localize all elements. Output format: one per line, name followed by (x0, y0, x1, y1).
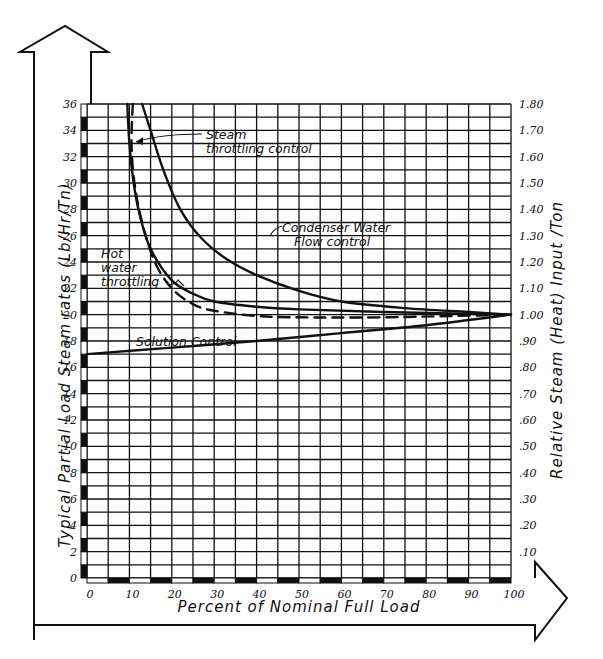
annotation-hotwater-line1: Hot (101, 246, 124, 261)
y2-tick-label: .90 (519, 335, 537, 348)
y2-tick-label: .60 (519, 414, 537, 427)
y-scale-segment (81, 433, 87, 446)
y-tick-label: 36 (63, 98, 77, 111)
x-scale-segment (87, 578, 108, 583)
y2-axis-title: Relative Steam (Heat) Input /Ton (548, 201, 566, 479)
x-scale-segment (151, 578, 172, 583)
x-scale-segment (384, 578, 405, 583)
y-scale-segment (81, 262, 87, 275)
y-scale-segment (81, 341, 87, 354)
x-scale-segment (257, 578, 278, 583)
y-scale-segment (81, 130, 87, 143)
y-scale-segment (81, 499, 87, 512)
annotation-condenser-line1: Condenser Water (282, 220, 391, 235)
x-scale-segment (172, 578, 193, 583)
y-scale-segment (81, 525, 87, 538)
y-scale-segment (81, 473, 87, 486)
annotation-condenser-leader (270, 226, 282, 236)
annotation-steam-throttling: Steam throttling control (136, 127, 312, 156)
y2-tick-label: 1.70 (519, 124, 544, 137)
y2-tick-label: .30 (519, 493, 537, 506)
x-tick-label: 80 (422, 588, 436, 601)
y-scale-segment (81, 446, 87, 459)
y2-tick-label: .10 (519, 546, 537, 559)
x-scale-segment (341, 578, 362, 583)
x-tick-label: 90 (465, 588, 479, 601)
y-scale-segment (81, 104, 87, 117)
y-scale-segment (81, 539, 87, 552)
y-scale-segment (81, 302, 87, 315)
y2-tick-label: 1.40 (519, 203, 544, 216)
annotation-hotwater-line2: water (101, 260, 137, 275)
y-scale-segment (81, 209, 87, 222)
x-scale-segment (278, 578, 299, 583)
y-scale-segment (81, 183, 87, 196)
y-scale-segment (81, 223, 87, 236)
x-scale-segment (193, 578, 214, 583)
y-scale-segment (81, 196, 87, 209)
y-scale-segment (81, 381, 87, 394)
steam-rate-chart: 0246810121416182022242628303234360102030… (0, 0, 603, 659)
y-scale-segment (81, 315, 87, 328)
annotation-solution: Solution Control (136, 334, 237, 349)
y2-tick-label: 1.60 (519, 151, 544, 164)
y-scale-segment (81, 552, 87, 565)
x-scale-segment (214, 578, 235, 583)
x-scale-segment (447, 578, 468, 583)
x-scale-segment (490, 578, 511, 583)
y-tick-label: 34 (63, 124, 77, 137)
y2-tick-label: .70 (519, 388, 537, 401)
y-scale-segment (81, 565, 87, 578)
x-scale-segment (108, 578, 129, 583)
y-scale-segment (81, 328, 87, 341)
y-scale-segment (81, 157, 87, 170)
annotation-steam-leader (136, 134, 202, 142)
y2-tick-label: .50 (519, 440, 537, 453)
annotation-steam-line1: Steam (206, 127, 246, 142)
series-line-hot-water-throttling (131, 104, 511, 318)
x-scale-segment (363, 578, 384, 583)
y-scale-segment (81, 249, 87, 262)
x-scale-segment (405, 578, 426, 583)
x-scale-segment (299, 578, 320, 583)
y-scale-segment (81, 460, 87, 473)
annotation-hotwater-line3: throttling (101, 274, 159, 289)
y-scale-segment (81, 512, 87, 525)
y2-tick-label: 1.80 (519, 98, 544, 111)
y-tick-label: 32 (63, 151, 77, 164)
y-scale-segment (81, 354, 87, 367)
y2-tick-label: 1.00 (519, 309, 544, 322)
y-scale-segment (81, 394, 87, 407)
y-scale-segment (81, 288, 87, 301)
y2-tick-label: .20 (519, 519, 537, 532)
y-axis-title: Typical Partial Load Steam rates (Lb/Hr/… (56, 182, 74, 547)
y-scale-segment (81, 144, 87, 157)
y-scale-segment (81, 170, 87, 183)
y2-tick-label: 1.50 (519, 177, 544, 190)
y2-tick-label: .40 (519, 467, 537, 480)
annotation-solution-text: Solution Control (136, 334, 237, 349)
x-tick-label: 0 (87, 588, 94, 601)
x-axis-title: Percent of Nominal Full Load (178, 598, 421, 616)
y-scale-segment (81, 236, 87, 249)
y-scale-segment (81, 367, 87, 380)
x-scale-segment (129, 578, 150, 583)
y2-tick-label: 1.20 (519, 256, 544, 269)
annotation-steam-line2: throttling control (206, 141, 312, 156)
y-scale-segment (81, 420, 87, 433)
y-scale-segment (81, 407, 87, 420)
y-scale-segment (81, 117, 87, 130)
y-scale-segment (81, 275, 87, 288)
x-scale-segment (426, 578, 447, 583)
x-tick-label: 10 (125, 588, 139, 601)
y-scale-segment (81, 486, 87, 499)
x-scale-segment (235, 578, 256, 583)
y-tick-label: 0 (70, 572, 77, 585)
x-scale-segment (320, 578, 341, 583)
y2-tick-label: 1.10 (519, 282, 544, 295)
x-scale-segment (469, 578, 490, 583)
y2-tick-label: .80 (519, 361, 537, 374)
y2-tick-label: 1.30 (519, 230, 544, 243)
x-tick-label: 100 (504, 588, 525, 601)
annotation-condenser: Condenser Water Flow control (270, 220, 391, 249)
